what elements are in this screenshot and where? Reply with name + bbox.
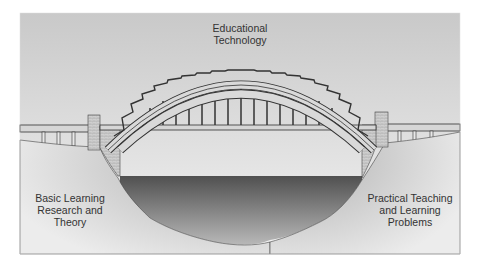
label-right-line-3: Problems — [355, 216, 465, 228]
label-left-line-2: Research and — [22, 204, 118, 216]
label-left-line-1: Basic Learning — [22, 192, 118, 204]
label-basic-learning-research: Basic Learning Research and Theory — [22, 192, 118, 228]
label-right-line-1: Practical Teaching — [355, 192, 465, 204]
label-right-line-2: and Learning — [355, 204, 465, 216]
label-practical-teaching-problems: Practical Teaching and Learning Problems — [355, 192, 465, 228]
label-top-line-1: Educational — [190, 22, 290, 34]
label-top-line-2: Technology — [190, 34, 290, 46]
label-educational-technology: Educational Technology — [190, 22, 290, 46]
label-left-line-3: Theory — [22, 216, 118, 228]
